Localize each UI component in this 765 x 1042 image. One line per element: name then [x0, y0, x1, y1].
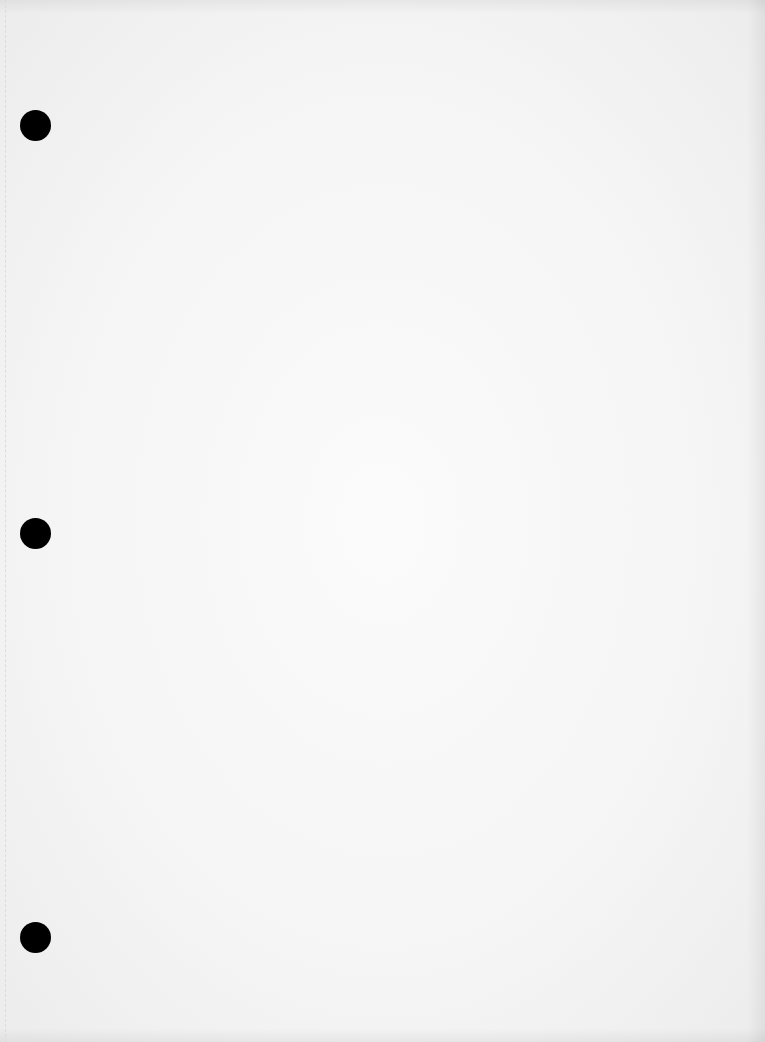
- margin-line: [5, 0, 6, 1042]
- punch-hole-middle: [20, 518, 51, 549]
- page-content: [70, 40, 725, 1002]
- punch-hole-bottom: [20, 922, 51, 953]
- scanned-page: [0, 0, 765, 1042]
- punch-hole-top: [20, 110, 51, 141]
